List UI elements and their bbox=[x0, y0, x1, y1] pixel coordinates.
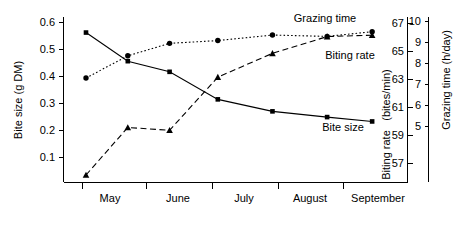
left-axis: 0.6 0.5 0.4 0.3 0.2 0.1 Bite size (g DM) bbox=[12, 16, 64, 163]
data-point bbox=[83, 75, 88, 80]
left-tick-label-0.3: 0.3 bbox=[40, 97, 55, 109]
right-outer-axis: 10 9 8 7 6 5 Grazing time (h/day) bbox=[409, 15, 452, 182]
data-point bbox=[370, 119, 375, 124]
left-tick-label-0.1: 0.1 bbox=[40, 151, 55, 163]
data-point bbox=[167, 41, 172, 46]
right-inner-axis-title: Biting rate bbox=[380, 130, 392, 180]
chart-figure: 0.6 0.5 0.4 0.3 0.2 0.1 Bite size (g DM)… bbox=[0, 0, 463, 227]
left-tick-label-0.5: 0.5 bbox=[40, 43, 55, 55]
series-markers-bite-size bbox=[84, 30, 375, 124]
series-label-bite-size: Bite size bbox=[322, 121, 364, 133]
chart-svg: 0.6 0.5 0.4 0.3 0.2 0.1 Bite size (g DM)… bbox=[0, 0, 463, 227]
x-axis: May June July August September bbox=[83, 183, 406, 205]
data-point bbox=[325, 115, 330, 120]
data-point bbox=[216, 97, 221, 102]
series-line-bite-size bbox=[86, 33, 372, 122]
left-tick-label-0.4: 0.4 bbox=[40, 70, 55, 82]
right-outer-tick-label-5: 5 bbox=[415, 120, 421, 132]
data-point bbox=[125, 53, 130, 58]
right-inner-tick-label-67: 67 bbox=[392, 17, 404, 29]
left-tick-label-0.2: 0.2 bbox=[40, 124, 55, 136]
right-inner-tick-label-63: 63 bbox=[392, 73, 404, 85]
x-label-june: June bbox=[166, 192, 190, 204]
data-point bbox=[126, 59, 131, 64]
right-inner-tick-label-57: 57 bbox=[392, 157, 404, 169]
right-inner-axis-unit: (bites/min) bbox=[380, 69, 392, 120]
right-outer-tick-label-10: 10 bbox=[409, 15, 421, 27]
x-label-august: August bbox=[293, 192, 327, 204]
data-point bbox=[215, 38, 220, 43]
data-point bbox=[270, 109, 275, 114]
x-label-july: July bbox=[234, 192, 254, 204]
series-label-grazing-time: Grazing time bbox=[294, 12, 356, 24]
right-outer-tick-label-7: 7 bbox=[415, 78, 421, 90]
right-outer-tick-label-6: 6 bbox=[415, 99, 421, 111]
data-point bbox=[270, 32, 275, 37]
right-inner-tick-label-65: 65 bbox=[392, 45, 404, 57]
right-outer-tick-label-9: 9 bbox=[415, 36, 421, 48]
series-label-biting-rate: Biting rate bbox=[325, 49, 375, 61]
left-axis-title: Bite size (g DM) bbox=[12, 61, 24, 139]
right-inner-tick-label-61: 61 bbox=[392, 101, 404, 113]
right-inner-tick-label-59: 59 bbox=[392, 129, 404, 141]
data-point bbox=[125, 124, 132, 130]
right-outer-axis-title: Grazing time (h/day) bbox=[440, 30, 452, 130]
x-label-september: September bbox=[351, 192, 405, 204]
plot-frame bbox=[64, 17, 409, 183]
data-point bbox=[215, 74, 222, 80]
data-point bbox=[167, 70, 172, 75]
x-label-may: May bbox=[100, 192, 121, 204]
right-outer-tick-label-8: 8 bbox=[415, 57, 421, 69]
data-point bbox=[84, 30, 89, 35]
left-tick-label-0.6: 0.6 bbox=[40, 16, 55, 28]
